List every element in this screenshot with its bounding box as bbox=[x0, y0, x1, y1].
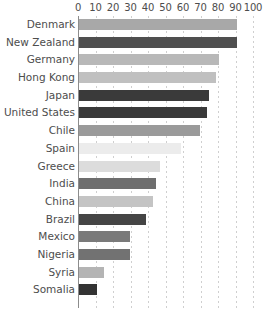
category-label: Syria bbox=[48, 264, 75, 282]
bar bbox=[79, 125, 200, 136]
bar bbox=[79, 54, 219, 65]
bar-rows: DenmarkNew ZealandGermanyHong KongJapanU… bbox=[0, 16, 266, 299]
bar bbox=[79, 267, 104, 278]
bar-row: United States bbox=[0, 104, 266, 122]
x-axis-tick-label: 40 bbox=[142, 2, 154, 14]
bar-row: Japan bbox=[0, 87, 266, 105]
x-axis-tick-label: 20 bbox=[107, 2, 119, 14]
bar-row: New Zealand bbox=[0, 34, 266, 52]
bar-row: India bbox=[0, 175, 266, 193]
bar bbox=[79, 161, 160, 172]
bar-row: Brazil bbox=[0, 211, 266, 229]
x-axis-tick-label: 50 bbox=[159, 2, 171, 14]
category-label: Hong Kong bbox=[18, 69, 75, 87]
bar bbox=[79, 284, 97, 295]
x-axis-tick-label: 70 bbox=[194, 2, 206, 14]
category-label: Somalia bbox=[33, 281, 75, 299]
bar bbox=[79, 231, 130, 242]
bar-row: Germany bbox=[0, 51, 266, 69]
category-label: Mexico bbox=[38, 228, 75, 246]
x-axis-tick-labels: 0102030405060708090100 bbox=[0, 2, 266, 16]
bar-row: Greece bbox=[0, 158, 266, 176]
bar-row: Hong Kong bbox=[0, 69, 266, 87]
bar bbox=[79, 37, 237, 48]
x-axis-tick-label: 10 bbox=[89, 2, 101, 14]
category-label: Germany bbox=[27, 51, 75, 69]
category-label: Nigeria bbox=[37, 246, 75, 264]
bar-row: Syria bbox=[0, 264, 266, 282]
category-label: Brazil bbox=[46, 211, 75, 229]
x-axis-tick-label: 0 bbox=[75, 2, 81, 14]
category-label: India bbox=[49, 175, 75, 193]
category-label: Chile bbox=[49, 122, 75, 140]
bar-row: Somalia bbox=[0, 281, 266, 299]
category-label: China bbox=[45, 193, 75, 211]
x-axis-tick-label: 30 bbox=[124, 2, 136, 14]
category-label: New Zealand bbox=[6, 34, 75, 52]
bar bbox=[79, 178, 156, 189]
bar-chart: 0102030405060708090100 DenmarkNew Zealan… bbox=[0, 0, 266, 315]
bar bbox=[79, 19, 237, 30]
bar-row: China bbox=[0, 193, 266, 211]
bar bbox=[79, 143, 181, 154]
x-axis-tick-label: 60 bbox=[177, 2, 189, 14]
category-label: Japan bbox=[46, 87, 75, 105]
x-axis-tick-label: 90 bbox=[229, 2, 241, 14]
bar-row: Spain bbox=[0, 140, 266, 158]
bar bbox=[79, 196, 153, 207]
bar bbox=[79, 72, 216, 83]
category-label: Denmark bbox=[27, 16, 75, 34]
bar-row: Nigeria bbox=[0, 246, 266, 264]
bar bbox=[79, 249, 130, 260]
bar-row: Mexico bbox=[0, 228, 266, 246]
bar bbox=[79, 214, 146, 225]
category-label: United States bbox=[4, 104, 75, 122]
bar-row: Denmark bbox=[0, 16, 266, 34]
bar-row: Chile bbox=[0, 122, 266, 140]
bar bbox=[79, 90, 209, 101]
category-label: Spain bbox=[46, 140, 75, 158]
x-axis-tick-label: 80 bbox=[212, 2, 224, 14]
x-axis-tick-label: 100 bbox=[244, 2, 263, 14]
category-label: Greece bbox=[38, 158, 75, 176]
bar bbox=[79, 107, 207, 118]
